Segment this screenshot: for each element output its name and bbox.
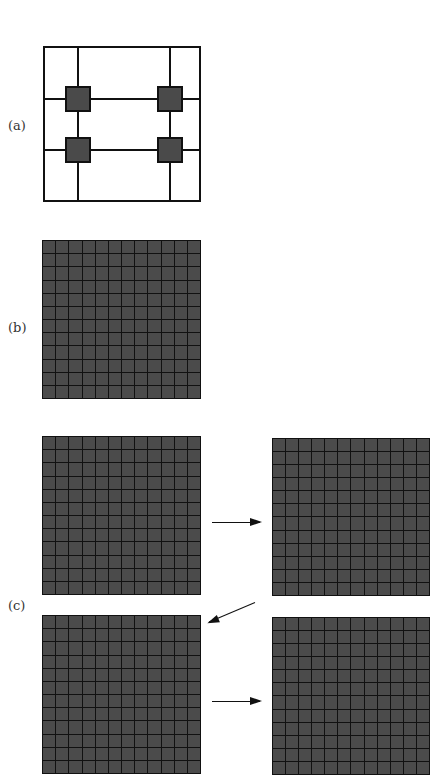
grid-cell [69, 735, 81, 747]
grid-cell [188, 307, 200, 319]
grid-cell [56, 281, 68, 293]
grid-cell [109, 463, 121, 475]
grid-cell [312, 696, 324, 708]
grid-cell [69, 281, 81, 293]
grid-cell [391, 696, 403, 708]
grid-cell [351, 439, 363, 451]
grid-cell [96, 386, 108, 398]
grid-cell [56, 682, 68, 694]
grid-cell [135, 346, 147, 358]
grid-cell [122, 629, 134, 641]
grid-cell [417, 762, 429, 774]
grid-cell [273, 491, 285, 503]
grid-cell [417, 478, 429, 490]
node-square [157, 137, 183, 163]
grid-cell [175, 529, 187, 541]
grid-cell [43, 682, 55, 694]
grid-cell [338, 723, 350, 735]
grid-cell [43, 761, 55, 773]
grid-cell [391, 710, 403, 722]
grid-cell [188, 281, 200, 293]
grid-cell [83, 748, 95, 760]
grid-cell [83, 307, 95, 319]
grid-cell [69, 642, 81, 654]
grid-cell [175, 477, 187, 489]
grid-cell [175, 463, 187, 475]
grid-cell [404, 465, 416, 477]
grid-cell [338, 465, 350, 477]
grid-cell [299, 618, 311, 630]
grid-cell [286, 683, 298, 695]
grid-cell [69, 307, 81, 319]
grid-cell [109, 281, 121, 293]
grid-cell [69, 569, 81, 581]
grid-cell [96, 307, 108, 319]
grid-cell [135, 748, 147, 760]
grid-cell [122, 516, 134, 528]
grid-cell [162, 477, 174, 489]
grid-cell [83, 529, 95, 541]
grid-cell [122, 307, 134, 319]
grid-cell [404, 670, 416, 682]
grid-cell [43, 477, 55, 489]
grid-cell [83, 503, 95, 515]
grid-cell [273, 583, 285, 595]
grid-cell [273, 618, 285, 630]
grid-cell [148, 642, 160, 654]
grid-cell [338, 557, 350, 569]
grid-cell [175, 333, 187, 345]
grid-cell [69, 542, 81, 554]
grid-cell [286, 736, 298, 748]
grid-cell [391, 631, 403, 643]
grid-cell [351, 517, 363, 529]
grid-cell [404, 723, 416, 735]
grid-cell [378, 683, 390, 695]
grid-cell [175, 735, 187, 747]
grid-cell [351, 736, 363, 748]
grid-cell [109, 477, 121, 489]
grid-cell [286, 544, 298, 556]
grid-cell [148, 294, 160, 306]
grid-cell [299, 762, 311, 774]
grid-cell [56, 463, 68, 475]
grid-cell [135, 281, 147, 293]
grid-cell [351, 557, 363, 569]
grid-cell [162, 735, 174, 747]
grid-cell [325, 644, 337, 656]
grid-cell [188, 437, 200, 449]
grid-cell [312, 491, 324, 503]
grid-cell [83, 695, 95, 707]
grid-cell [135, 582, 147, 594]
grid-cell [162, 307, 174, 319]
grid-cell [43, 695, 55, 707]
grid-cell [56, 582, 68, 594]
grid-cell [175, 556, 187, 568]
grid-cell [122, 695, 134, 707]
grid-cell [365, 583, 377, 595]
grid-cell [96, 294, 108, 306]
grid-cell [312, 531, 324, 543]
grid-cell [365, 531, 377, 543]
grid-cell [69, 695, 81, 707]
grid-cell [417, 452, 429, 464]
grid-cell [273, 631, 285, 643]
grid-cell [404, 583, 416, 595]
grid-cell [351, 491, 363, 503]
grid-cell [404, 696, 416, 708]
grid-cell [188, 616, 200, 628]
grid-cell [83, 669, 95, 681]
grid-cell [69, 463, 81, 475]
grid-cell [325, 657, 337, 669]
grid-cell [96, 516, 108, 528]
grid-cell [378, 749, 390, 761]
grid-cell [148, 373, 160, 385]
grid-cell [96, 450, 108, 462]
grid-cell [175, 582, 187, 594]
grid-cell [109, 294, 121, 306]
grid-cell [365, 491, 377, 503]
grid-cell [162, 616, 174, 628]
grid-cell [122, 708, 134, 720]
grid-cell [109, 708, 121, 720]
grid-cell [404, 762, 416, 774]
grid-cell [109, 386, 121, 398]
